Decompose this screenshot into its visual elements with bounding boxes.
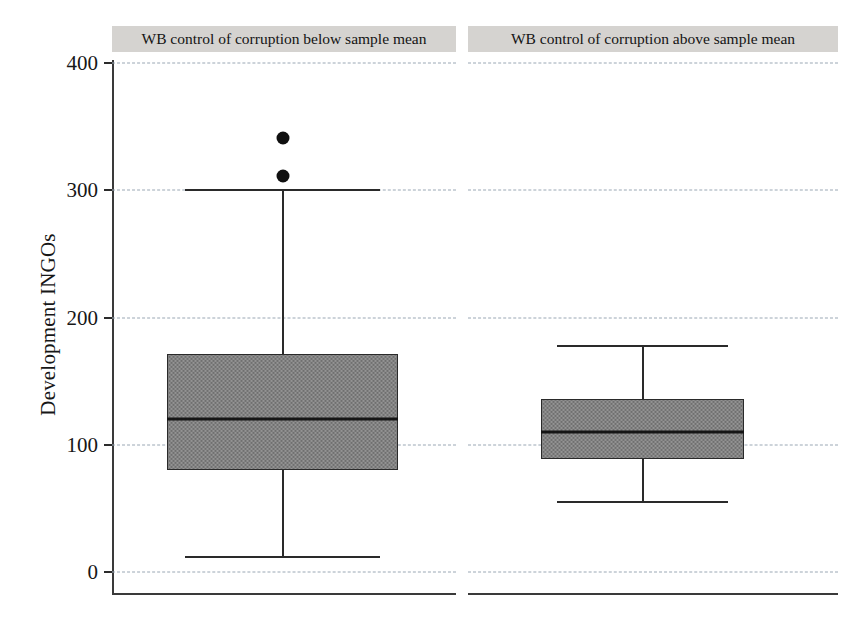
gridline bbox=[468, 190, 838, 191]
y-tick-label: 300 bbox=[36, 178, 98, 203]
panel-title-above-sample-mean: WB control of corruption above sample me… bbox=[468, 26, 838, 52]
y-tick-label: 400 bbox=[36, 51, 98, 76]
median-line bbox=[167, 418, 398, 421]
whisker-lower bbox=[642, 459, 644, 502]
gridline bbox=[468, 63, 838, 64]
box-iqr bbox=[167, 354, 398, 470]
whisker-cap-upper bbox=[557, 345, 728, 347]
y-tick-label: 0 bbox=[36, 560, 98, 585]
whisker-cap-upper bbox=[185, 189, 379, 191]
gridline bbox=[112, 572, 456, 573]
panel-title-below-sample-mean: WB control of corruption below sample me… bbox=[112, 26, 456, 52]
y-tick-label: 100 bbox=[36, 432, 98, 457]
gridline bbox=[112, 317, 456, 318]
plot-area-below-sample-mean bbox=[112, 60, 456, 595]
gridline bbox=[112, 63, 456, 64]
y-tick-label: 200 bbox=[36, 305, 98, 330]
outlier-point bbox=[276, 132, 289, 145]
outlier-point bbox=[276, 170, 289, 183]
panel-above-sample-mean: WB control of corruption above sample me… bbox=[468, 0, 838, 620]
whisker-cap-lower bbox=[185, 556, 379, 558]
gridline bbox=[468, 572, 838, 573]
x-axis-line-right bbox=[468, 593, 838, 595]
gridline bbox=[468, 317, 838, 318]
whisker-cap-lower bbox=[557, 501, 728, 503]
median-line bbox=[541, 431, 744, 434]
x-axis-line-left bbox=[112, 593, 456, 595]
whisker-upper bbox=[642, 346, 644, 399]
whisker-upper bbox=[282, 190, 284, 354]
panel-below-sample-mean: WB control of corruption below sample me… bbox=[112, 0, 456, 620]
box-iqr bbox=[541, 399, 744, 459]
y-axis-tick-labels: 0100200300400 bbox=[36, 0, 98, 620]
plot-area-above-sample-mean bbox=[468, 60, 838, 595]
boxplot-figure: Development INGOs 0100200300400 WB contr… bbox=[0, 0, 867, 620]
whisker-lower bbox=[282, 470, 284, 556]
